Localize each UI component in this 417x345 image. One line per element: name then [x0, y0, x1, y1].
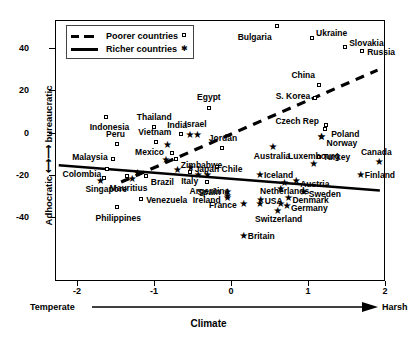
star-marker-icon: ✱ [181, 44, 188, 53]
point-label: Russia [367, 48, 395, 57]
point-label: Switzerland [255, 214, 302, 223]
point-label: Ukraine [316, 29, 347, 38]
data-point-square [105, 167, 109, 171]
plot-frame: BulgariaUkraineSlovakiaRussiaChinaS. Kor… [55, 20, 385, 281]
data-point-star: ★ [162, 154, 169, 163]
data-point-star: ★ [276, 199, 283, 208]
point-label: Luxembourg [288, 152, 339, 161]
point-label: S. Korea [276, 91, 311, 100]
data-point-star: ★ [194, 169, 201, 178]
data-point-square [205, 180, 209, 184]
x-axis-title: Climate [0, 318, 417, 329]
x-tick-label: -1 [150, 286, 158, 296]
data-point-star: ★ [292, 175, 299, 184]
data-point-star: ★ [133, 167, 140, 176]
data-point-square [207, 106, 211, 110]
data-point-square [115, 142, 119, 146]
data-point-square [179, 132, 183, 136]
x-tick-label: -2 [73, 286, 81, 296]
x-tick-label: 1 [305, 286, 310, 296]
y-tick-label: -20 [3, 170, 29, 180]
data-point-square [104, 115, 108, 119]
x-tick-mark [385, 281, 386, 286]
point-label: Germany [291, 204, 328, 213]
point-label: Egypt [197, 93, 221, 102]
data-point-square [313, 96, 317, 100]
axis-end-temperate: Temperate [30, 302, 75, 312]
data-point-star: ★ [255, 199, 262, 208]
data-point-star: ★ [163, 140, 170, 149]
data-point-square [360, 49, 364, 53]
data-point-square [317, 83, 321, 87]
data-point-square [111, 157, 115, 161]
x-tick-mark [308, 281, 309, 286]
y-axis-label: Adhocratic ⟷⟶ bureaucratic [43, 56, 54, 256]
data-point-square [170, 151, 174, 155]
plot-area: BulgariaUkraineSlovakiaRussiaChinaS. Kor… [56, 21, 384, 280]
point-label: Bulgaria [238, 32, 272, 41]
point-label: Peru [106, 130, 125, 139]
point-label: Israel [184, 119, 206, 128]
point-label: Philippines [96, 214, 141, 223]
point-label: Malaysia [72, 152, 107, 161]
x-tick-label: 0 [228, 286, 233, 296]
data-point-star: ★ [317, 131, 324, 140]
y-tick-label: 40 [3, 43, 29, 53]
data-point-square [154, 140, 158, 144]
data-point-star: ★ [269, 142, 276, 151]
legend: Poorer countries Richer countries ✱ [66, 25, 194, 59]
x-tick-mark [154, 281, 155, 286]
data-point-square [275, 24, 279, 28]
chart-screenshot: Adhocratic ⟷⟶ bureaucratic BulgariaUkrai… [0, 0, 417, 345]
square-marker-icon [182, 33, 186, 37]
point-label: Mexico [135, 147, 164, 156]
legend-item-poorer[interactable]: Poorer countries [71, 29, 188, 42]
point-label: Norway [327, 138, 358, 147]
data-point-square [174, 157, 178, 161]
data-point-star: ★ [223, 190, 230, 199]
point-label: Australia [254, 152, 290, 161]
data-point-square [139, 197, 143, 201]
data-point-star: ★ [186, 163, 193, 172]
x-tick-label: 2 [382, 286, 387, 296]
point-label: Chile [222, 165, 243, 174]
y-tick-label: 20 [3, 85, 29, 95]
point-label: China [291, 70, 315, 79]
data-point-star: ★ [239, 230, 246, 239]
legend-label-richer: Richer countries [106, 44, 177, 54]
y-tick-mark [49, 175, 55, 176]
data-point-star: ★ [255, 169, 262, 178]
point-label: Venezuela [146, 195, 187, 204]
y-tick-label: -40 [3, 212, 29, 222]
data-point-square [144, 174, 148, 178]
y-tick-mark [49, 217, 55, 218]
climate-direction-axis: Temperate Harsh [30, 300, 410, 314]
x-tick-mark [77, 281, 78, 286]
point-label: Britain [248, 231, 275, 240]
legend-item-richer[interactable]: Richer countries ✱ [71, 42, 188, 55]
point-label: Vietnam [138, 127, 171, 136]
axis-end-harsh: Harsh [382, 302, 408, 312]
data-point-star: ★ [185, 129, 192, 138]
y-tick-mark [49, 133, 55, 134]
data-point-square [310, 36, 314, 40]
point-label: Czech Rep [275, 117, 318, 126]
y-tick-label: 0 [3, 128, 29, 138]
data-point-star: ★ [203, 169, 210, 178]
data-point-star: ★ [276, 184, 283, 193]
data-point-square [115, 205, 119, 209]
data-point-star: ★ [173, 165, 180, 174]
dashed-line-icon [71, 31, 101, 41]
solid-line-icon [71, 44, 101, 54]
data-point-square [220, 146, 224, 150]
arrow-icon [92, 300, 382, 314]
point-label: Mauritius [110, 183, 148, 192]
data-point-star: ★ [356, 169, 363, 178]
point-label: Finland [365, 170, 395, 179]
point-label: Jordan [209, 134, 237, 143]
data-point-star: ★ [239, 199, 246, 208]
data-point-star: ★ [375, 156, 382, 165]
point-label: Canada [361, 147, 392, 156]
data-point-star: ★ [96, 175, 103, 184]
x-tick-mark [231, 281, 232, 286]
